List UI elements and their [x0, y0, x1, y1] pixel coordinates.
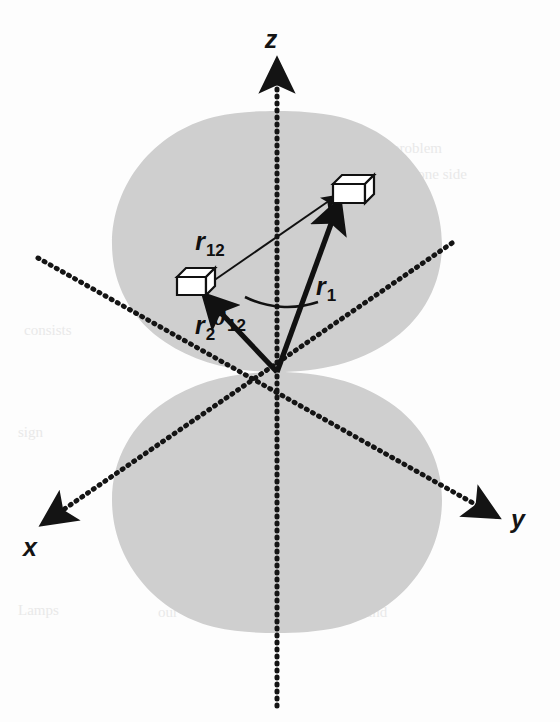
vector-r1-base: r	[316, 272, 327, 300]
axis-x-label: x	[21, 533, 38, 561]
electron-2-cube-front	[177, 277, 206, 295]
vector-r2-subscript: 2	[206, 325, 215, 344]
vector-r1-subscript: 1	[327, 286, 336, 305]
axis-z-label: z	[264, 25, 278, 53]
electron-1-cube	[333, 175, 374, 203]
vector-r12-base: r	[195, 227, 206, 255]
electron-2-cube	[177, 268, 215, 295]
vector-r2-base: r	[195, 311, 206, 339]
axis-y-label: y	[509, 505, 526, 533]
orbital-diagram: z x y θ12 r12	[0, 0, 560, 722]
electron-1-cube-front	[333, 184, 365, 203]
figure-root: problem your one side consists sign Lamp…	[0, 0, 560, 722]
vector-r12-subscript: 12	[206, 241, 225, 260]
